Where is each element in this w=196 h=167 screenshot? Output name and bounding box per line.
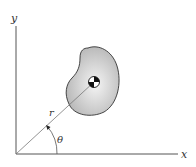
radius-label: r: [49, 107, 55, 118]
angle-arc: [47, 126, 57, 154]
x-axis-label: x: [181, 148, 188, 161]
centroid-icon: [89, 77, 100, 88]
y-axis-label: y: [10, 12, 18, 25]
diagram-canvas: y x r θ: [0, 0, 196, 167]
radius-line: [16, 82, 94, 154]
angle-label: θ: [57, 134, 63, 145]
